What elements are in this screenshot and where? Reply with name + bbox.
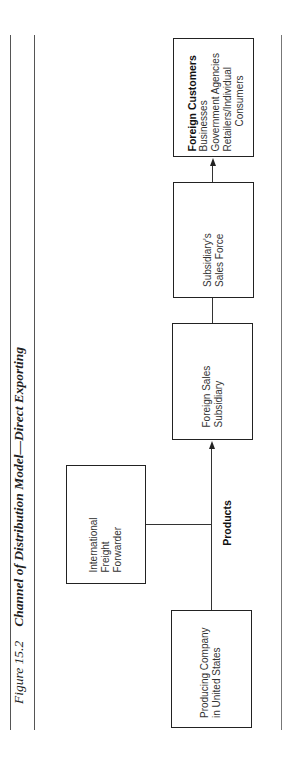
node-subsidiary-sales-force: Subsidiary’s Sales Force (173, 182, 254, 298)
node-producing-company: Producing Company in United States (171, 610, 252, 728)
node-international-freight-forwarder: International Freight Forwarder (66, 465, 146, 584)
foreign-sales-subsidiary-text: Foreign Sales Subsidiary (201, 324, 227, 441)
foreign-sales-subsidiary-line-2: Subsidiary (213, 324, 225, 428)
producing-company-line-2: in United States (211, 610, 223, 718)
freight-forwarder-line-2: Freight (100, 466, 112, 573)
subsidiary-sales-force-text: Subsidiary’s Sales Force (202, 183, 228, 299)
node-foreign-customers: Foreign Customers Businesses Government … (173, 38, 254, 157)
freight-forwarder-line-3: Forwarder (112, 466, 124, 573)
subsidiary-sales-force-line-1: Subsidiary’s (202, 183, 214, 287)
arrow-to-foreign-sales-subsidiary-icon (209, 441, 215, 449)
foreign-sales-subsidiary-line-1: Foreign Sales (201, 324, 213, 428)
sales-force-to-customers-line (212, 165, 213, 182)
foreign-customers-line-2: Government Agencies (210, 41, 222, 152)
products-label: Products (221, 498, 235, 548)
left-inner-rule (34, 35, 35, 730)
freight-forwarder-connector (146, 524, 212, 525)
producing-company-text: Producing Company in United States (199, 610, 225, 728)
foreign-customers-text: Foreign Customers Businesses Government … (186, 41, 242, 160)
foreign-customers-line-3: Retailers/Individual (222, 41, 234, 152)
figure-title: Figure 15.2Channel of Distribution Model… (11, 284, 29, 704)
foreign-customers-title: Foreign Customers (186, 41, 198, 152)
freight-forwarder-line-1: International (88, 466, 100, 573)
node-foreign-sales-subsidiary: Foreign Sales Subsidiary (172, 323, 253, 440)
subsidiary-to-sales-force-line (212, 298, 213, 323)
right-rule (281, 35, 282, 730)
foreign-customers-line-1: Businesses (198, 41, 210, 152)
producing-company-line-1: Producing Company (199, 610, 211, 718)
freight-forwarder-text: International Freight Forwarder (88, 466, 126, 585)
figure-caption: Channel of Distribution Model—Direct Exp… (11, 347, 26, 627)
figure-number: Figure 15.2 (11, 641, 26, 704)
foreign-customers-line-4: Consumers (234, 41, 246, 152)
products-flow-line (211, 448, 212, 610)
subsidiary-sales-force-line-2: Sales Force (214, 183, 226, 287)
